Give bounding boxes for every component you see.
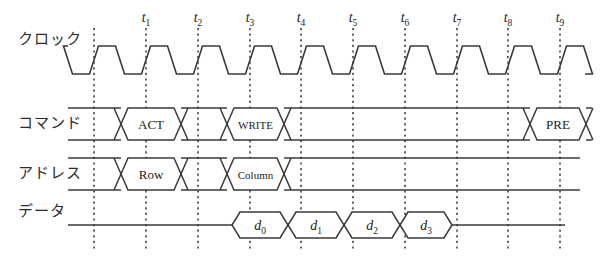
bus-cell-left-crossing [220,108,227,140]
clock-waveform-group [64,46,593,74]
tick-label-t9: t9 [556,10,565,28]
bus-cell-label: WRITE [238,119,273,131]
command-waveform-group: ACTWRITEPRE [68,108,593,140]
bus-cell-command: ACT [114,108,188,140]
tick-label-text: t3 [246,10,255,28]
bus-cell-left-crossing [523,108,530,140]
row-label-clock: クロック [18,30,82,48]
bus-cell-label: PRE [546,117,570,132]
data-cell-d1: d1 [288,212,344,238]
tick-label-t3: t3 [246,10,255,28]
bus-cell-right-crossing [284,108,291,140]
timing-diagram-canvas: t1t2t3t4t5t6t7t8t9 クロックコマンドアドレスデータ ACTWR… [0,0,610,266]
tick-label-text: t1 [142,10,151,28]
tick-labels-group: t1t2t3t4t5t6t7t8t9 [142,10,565,28]
data-cell-d2: d2 [344,212,400,238]
tick-label-t5: t5 [349,10,358,28]
bus-idle-segment [284,158,580,190]
bus-cell-label: Column [238,169,274,181]
bus-cell-right-crossing [284,158,291,190]
tick-label-text: t2 [194,10,203,28]
tick-label-text: t5 [349,10,358,28]
tick-label-t1: t1 [142,10,151,28]
tick-label-t4: t4 [297,10,306,28]
bus-idle-segment [181,158,227,190]
bus-cell-command: PRE [523,108,593,140]
bus-idle-segment [181,108,227,140]
bus-cell-address: Row [114,158,188,190]
timing-diagram: t1t2t3t4t5t6t7t8t9 クロックコマンドアドレスデータ ACTWR… [0,0,610,266]
bus-cell-right-crossing [181,158,188,190]
bus-cell-left-crossing [220,158,227,190]
row-label-address: アドレス [18,164,82,182]
row-label-data: データ [18,202,66,220]
bus-cell-command: WRITE [220,108,291,140]
bus-cell-left-crossing [114,108,121,140]
tick-label-t2: t2 [194,10,203,28]
tick-label-t7: t7 [453,10,462,28]
tick-label-text: t7 [453,10,462,28]
bus-cell-right-crossing [181,108,188,140]
bus-cell-address: Column [220,158,291,190]
bus-cell-left-crossing [114,158,121,190]
tick-label-t8: t8 [504,10,513,28]
data-waveform-group: d0d1d2d3 [68,212,565,238]
row-label-command: コマンド [18,114,82,132]
bus-cell-label: Row [139,167,164,182]
address-waveform-group: RowColumn [68,158,580,190]
bus-idle-segment [284,108,530,140]
tick-label-text: t4 [297,10,306,28]
data-cell-d3: d3 [400,212,452,238]
data-cell-d0: d0 [232,212,288,238]
tick-label-text: t8 [504,10,513,28]
tick-label-text: t9 [556,10,565,28]
row-labels-group: クロックコマンドアドレスデータ [18,30,82,220]
tick-label-t6: t6 [401,10,410,28]
bus-cell-label: ACT [138,117,164,132]
clock-signal-path [64,46,593,74]
bus-cell-right-crossing [586,108,593,140]
tick-label-text: t6 [401,10,410,28]
